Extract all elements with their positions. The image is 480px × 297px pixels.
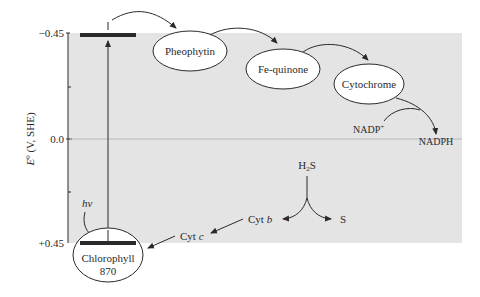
- tick-label-zero: 0.0: [50, 133, 64, 145]
- cyt-b-letter: b: [267, 213, 273, 225]
- nadp-text: NADP: [353, 124, 381, 135]
- excited-level-bar: [80, 33, 136, 37]
- arrow-to-pheophytin: [112, 12, 176, 28]
- axis-title: E0 (V, SHE): [24, 112, 37, 166]
- h2s-h: H: [298, 159, 306, 171]
- ground-level-bar-top: [80, 241, 136, 245]
- tick-label-top: −0.45: [39, 27, 65, 39]
- nadp-label: NADP+: [353, 123, 384, 135]
- pheophytin-label: Pheophytin: [165, 45, 216, 57]
- sulfur-label: S: [340, 213, 346, 225]
- chlorophyll-label-2: 870: [100, 265, 117, 277]
- cyt-b-label: Cyt b: [248, 213, 273, 225]
- cyt-b-prefix: Cyt: [248, 213, 267, 225]
- hv-label: hv: [82, 197, 93, 209]
- cyt-c-letter: c: [199, 230, 204, 242]
- axis-title-unit: (V, SHE): [24, 112, 37, 155]
- nadph-label: NADPH: [419, 136, 453, 147]
- photosynthesis-electron-diagram: −0.45 0.0 +0.45 E0 (V, SHE) hv Chlorophy…: [0, 0, 480, 297]
- cyt-c-prefix: Cyt: [180, 230, 199, 242]
- chlorophyll-label-1: Chlorophyll: [81, 252, 134, 264]
- h2s-s: S: [310, 159, 316, 171]
- cytochrome-label: Cytochrome: [342, 78, 396, 90]
- tick-label-bottom: +0.45: [39, 237, 65, 249]
- nadp-sup: +: [380, 123, 384, 131]
- cyt-c-label: Cyt c: [180, 230, 204, 242]
- fe-quinone-label: Fe-quinone: [258, 63, 308, 75]
